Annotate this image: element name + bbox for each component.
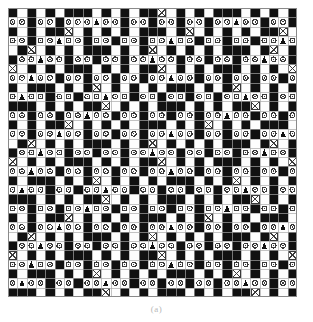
circle-symbol-center-dot [273,152,274,153]
circle-symbol-center-dot [273,115,274,116]
pattern-cell-filled [27,176,37,186]
circle-symbol-center-dot [226,59,227,60]
circle-symbol-center-dot [245,40,246,41]
circle-symbol-center-dot [87,96,88,97]
circle-symbol-center-dot [152,264,153,265]
pattern-cell-empty [166,120,176,130]
pattern-cell-filled [260,139,270,149]
pattern-cell-filled [269,176,279,186]
pattern-cell-filled [55,120,65,130]
circle-symbol-center-dot [49,21,50,22]
circle-symbol-center-dot [68,133,69,134]
pattern-cell-filled [111,73,121,83]
pattern-cell-empty [120,176,130,186]
pattern-cell-filled [45,288,55,297]
pattern-cell-filled [139,157,149,167]
pattern-cell-filled [260,17,270,27]
pattern-cell-filled [120,241,130,251]
circle-symbol-center-dot [21,208,22,209]
pattern-cell-filled [27,288,37,297]
pattern-cell-empty [288,213,297,223]
pattern-cell-empty [17,176,27,186]
circle-symbol-center-dot [21,21,22,22]
pattern-cell-filled [204,241,214,251]
pattern-cell-empty [278,139,288,149]
circle-symbol-center-dot [21,226,22,227]
circle-symbol-center-dot [96,77,97,78]
pattern-cell-filled [250,73,260,83]
circle-symbol-center-dot [189,21,190,22]
pattern-cell-filled [194,8,204,18]
circle-symbol-center-dot [152,189,153,190]
circle-symbol-center-dot [142,245,143,246]
pattern-cell-empty [111,213,121,223]
circle-symbol-center-dot [49,133,50,134]
pattern-cell-empty [129,157,139,167]
pattern-cell-filled [139,129,149,139]
pattern-cell-filled [120,27,130,37]
pattern-cell-filled [157,194,167,204]
pattern-cell-filled [166,45,176,55]
pattern-cell-filled [241,288,251,297]
pattern-cell-filled [73,92,83,102]
pattern-cell-empty [73,288,83,297]
pattern-cell-empty [204,64,214,74]
pattern-cell-filled [83,213,93,223]
pattern-cell-filled [185,232,195,242]
circle-symbol-center-dot [142,59,143,60]
pattern-cell-filled [241,213,251,223]
pattern-cell-empty [250,232,260,242]
pattern-cell-filled [194,194,204,204]
circle-symbol-center-dot [96,208,97,209]
circle-symbol-center-dot [68,170,69,171]
pattern-cell-filled [111,222,121,232]
pattern-cell-filled [45,101,55,111]
circle-symbol-center-dot [105,226,106,227]
circle-symbol-center-dot [161,264,162,265]
circle-symbol-center-dot [77,21,78,22]
pattern-cell-filled [176,288,186,297]
pattern-cell-filled [139,204,149,214]
pattern-cell-filled [45,269,55,279]
pattern-cell-empty [129,139,139,149]
pattern-cell-filled [176,213,186,223]
pattern-cell-filled [288,55,297,65]
pattern-cell-filled [83,288,93,297]
circle-symbol-center-dot [292,189,293,190]
circle-symbol-center-dot [217,133,218,134]
circle-symbol-center-dot [180,264,181,265]
pattern-cell-filled [232,139,242,149]
circle-symbol-center-dot [189,40,190,41]
circle-symbol-center-dot [292,170,293,171]
circle-symbol-center-dot [273,208,274,209]
circle-symbol-center-dot [68,282,69,283]
circle-symbol-center-dot [152,40,153,41]
pattern-cell-empty [36,8,46,18]
circle-symbol-center-dot [208,208,209,209]
circle-symbol-center-dot [59,96,60,97]
pattern-cell-filled [17,232,27,242]
pattern-cell-filled [250,269,260,279]
pattern-cell-filled [111,129,121,139]
pattern-cell-empty [36,250,46,260]
pattern-cell-empty [36,120,46,130]
pattern-cell-filled [204,176,214,186]
circle-symbol-center-dot [226,96,227,97]
circle-symbol-center-dot [105,115,106,116]
pattern-cell-empty [213,176,223,186]
pattern-cell-filled [27,213,37,223]
circle-symbol-center-dot [21,77,22,78]
pattern-cell-empty [260,64,270,74]
pattern-cell-filled [83,83,93,93]
pattern-cell-filled [176,250,186,260]
circle-symbol-center-dot [264,208,265,209]
pattern-cell-filled [260,120,270,130]
circle-symbol-center-dot [40,40,41,41]
circle-symbol-center-dot [208,77,209,78]
pattern-cell-empty [194,176,204,186]
circle-symbol-center-dot [245,245,246,246]
circle-symbol-center-dot [31,152,32,153]
pattern-cell-filled [101,139,111,149]
circle-symbol-center-dot [217,152,218,153]
pattern-cell-filled [269,83,279,93]
